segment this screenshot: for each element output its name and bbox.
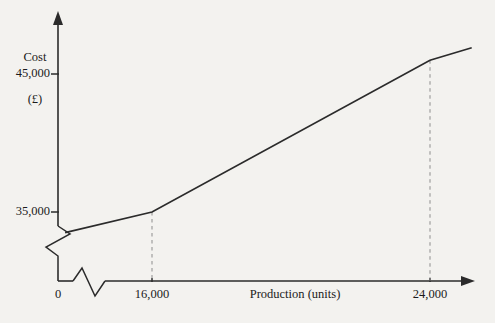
y-tick-label-35000: 35,000 [0, 204, 50, 218]
origin-label: 0 [55, 287, 61, 301]
axis-break-icon-x [73, 268, 105, 296]
y-axis-title-line1: Cost [14, 50, 56, 64]
x-tick-label-24000: 24,000 [390, 287, 470, 301]
arrow-right-icon [461, 276, 475, 286]
y-axis-title-line2: (£) [14, 92, 56, 106]
total-cost-line [65, 48, 472, 233]
y-tick-label-45000: 45,000 [0, 66, 50, 80]
x-tick-label-16000: 16,000 [112, 287, 192, 301]
x-axis-title: Production (units) [225, 287, 365, 301]
cost-production-chart: Cost (£) 45,000 35,000 0 16,000 24,000 P… [0, 0, 495, 323]
chart-canvas [0, 0, 495, 323]
